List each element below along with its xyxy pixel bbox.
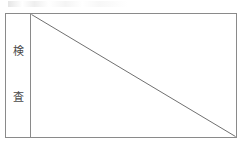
scanned-page: 検 査 [0, 0, 246, 147]
label-char-sa: 査 [13, 92, 24, 103]
label-char-ken: 検 [13, 46, 24, 57]
label-column-inspection: 検 査 [6, 14, 31, 137]
scan-noise-artifact [8, 1, 128, 7]
inspection-table: 検 査 [5, 13, 237, 138]
diagonal-strike-icon [31, 14, 236, 137]
inspection-content-cell [31, 14, 236, 137]
